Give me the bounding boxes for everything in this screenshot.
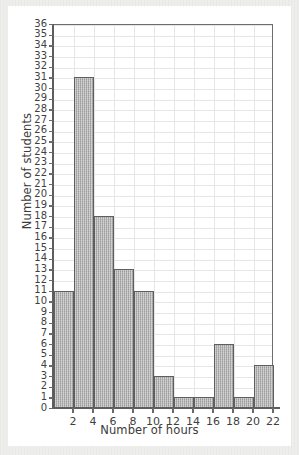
y-tick-mark bbox=[49, 397, 53, 398]
y-tick-mark bbox=[49, 259, 53, 260]
y-tick-label: 23 bbox=[7, 156, 47, 168]
y-tick-mark bbox=[49, 77, 53, 78]
y-tick-mark bbox=[49, 35, 53, 36]
x-tick-mark bbox=[172, 408, 173, 413]
y-tick-label: 11 bbox=[7, 284, 47, 296]
y-tick-label: 21 bbox=[7, 178, 47, 190]
y-tick-label: 34 bbox=[7, 39, 47, 51]
y-tick-label: 18 bbox=[7, 210, 47, 222]
chart-page: Number of students Number of hours 01234… bbox=[0, 0, 299, 455]
y-tick-mark bbox=[49, 333, 53, 334]
y-tick-mark bbox=[49, 141, 53, 142]
y-tick-label: 13 bbox=[7, 263, 47, 275]
y-tick-label: 6 bbox=[7, 338, 47, 350]
x-tick-mark bbox=[212, 408, 213, 413]
y-tick-label: 29 bbox=[7, 92, 47, 104]
y-tick-label: 9 bbox=[7, 306, 47, 318]
y-tick-label: 35 bbox=[7, 28, 47, 40]
y-tick-mark bbox=[49, 269, 53, 270]
histogram-figure: Number of students Number of hours 01234… bbox=[8, 6, 291, 446]
y-tick-mark bbox=[49, 280, 53, 281]
y-tick-mark bbox=[49, 291, 53, 292]
y-tick-mark bbox=[49, 131, 53, 132]
y-tick-mark bbox=[49, 237, 53, 238]
y-tick-mark bbox=[49, 365, 53, 366]
y-tick-label: 26 bbox=[7, 124, 47, 136]
x-tick-mark bbox=[152, 408, 153, 413]
y-tick-label: 36 bbox=[7, 18, 47, 30]
y-tick-mark bbox=[49, 184, 53, 185]
y-tick-mark bbox=[49, 173, 53, 174]
histogram-bar bbox=[114, 269, 134, 408]
y-tick-label: 32 bbox=[7, 60, 47, 72]
y-tick-mark bbox=[49, 323, 53, 324]
histogram-bar bbox=[134, 291, 154, 408]
x-tick-label: 22 bbox=[259, 415, 287, 428]
plot-area bbox=[53, 24, 273, 408]
y-tick-mark bbox=[49, 312, 53, 313]
y-tick-label: 5 bbox=[7, 348, 47, 360]
y-tick-label: 14 bbox=[7, 252, 47, 264]
histogram-bar bbox=[54, 291, 74, 408]
y-tick-label: 12 bbox=[7, 274, 47, 286]
y-tick-label: 17 bbox=[7, 220, 47, 232]
y-tick-label: 28 bbox=[7, 103, 47, 115]
histogram-bar bbox=[154, 376, 174, 408]
y-tick-label: 33 bbox=[7, 50, 47, 62]
y-tick-label: 10 bbox=[7, 295, 47, 307]
y-tick-mark bbox=[49, 216, 53, 217]
y-tick-mark bbox=[49, 387, 53, 388]
y-tick-label: 15 bbox=[7, 242, 47, 254]
x-tick-mark bbox=[192, 408, 193, 413]
y-tick-mark bbox=[49, 408, 53, 409]
y-tick-label: 25 bbox=[7, 135, 47, 147]
histogram-bar bbox=[254, 365, 274, 408]
y-tick-mark bbox=[49, 205, 53, 206]
y-tick-label: 1 bbox=[7, 391, 47, 403]
x-tick-mark bbox=[272, 408, 273, 413]
histogram-bar bbox=[74, 77, 94, 408]
y-tick-label: 16 bbox=[7, 231, 47, 243]
x-tick-mark bbox=[252, 408, 253, 413]
y-tick-mark bbox=[49, 195, 53, 196]
y-tick-label: 0 bbox=[7, 402, 47, 414]
bar-series bbox=[54, 25, 272, 408]
x-tick-mark bbox=[232, 408, 233, 413]
y-tick-label: 3 bbox=[7, 370, 47, 382]
y-tick-label: 4 bbox=[7, 359, 47, 371]
y-tick-mark bbox=[49, 152, 53, 153]
y-tick-label: 31 bbox=[7, 71, 47, 83]
y-tick-mark bbox=[49, 45, 53, 46]
y-tick-mark bbox=[49, 248, 53, 249]
y-tick-mark bbox=[49, 88, 53, 89]
y-tick-label: 19 bbox=[7, 199, 47, 211]
y-tick-label: 7 bbox=[7, 327, 47, 339]
x-tick-mark bbox=[72, 408, 73, 413]
y-tick-label: 8 bbox=[7, 316, 47, 328]
y-tick-label: 22 bbox=[7, 167, 47, 179]
y-tick-mark bbox=[49, 163, 53, 164]
y-tick-label: 30 bbox=[7, 82, 47, 94]
x-tick-mark bbox=[132, 408, 133, 413]
y-tick-mark bbox=[49, 99, 53, 100]
y-tick-mark bbox=[49, 355, 53, 356]
x-tick-mark bbox=[92, 408, 93, 413]
x-tick-mark bbox=[112, 408, 113, 413]
x-axis-line bbox=[52, 407, 280, 409]
y-tick-label: 20 bbox=[7, 188, 47, 200]
y-tick-mark bbox=[49, 67, 53, 68]
y-tick-label: 27 bbox=[7, 114, 47, 126]
y-tick-mark bbox=[49, 301, 53, 302]
y-tick-mark bbox=[49, 56, 53, 57]
y-tick-label: 2 bbox=[7, 380, 47, 392]
y-tick-mark bbox=[49, 24, 53, 25]
y-tick-label: 24 bbox=[7, 146, 47, 158]
histogram-bar bbox=[214, 344, 234, 408]
y-tick-mark bbox=[49, 109, 53, 110]
y-tick-mark bbox=[49, 376, 53, 377]
y-tick-mark bbox=[49, 344, 53, 345]
y-tick-mark bbox=[49, 120, 53, 121]
y-tick-mark bbox=[49, 227, 53, 228]
histogram-bar bbox=[94, 216, 114, 408]
